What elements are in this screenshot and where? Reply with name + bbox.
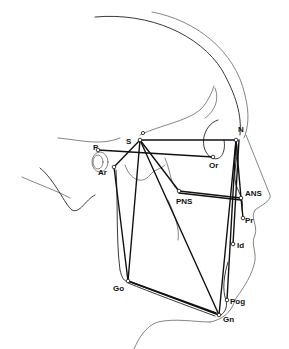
point-ar <box>112 165 116 169</box>
point-go <box>126 279 130 283</box>
label-pr: Pr <box>245 216 253 225</box>
point-or <box>211 155 215 159</box>
point-pog <box>225 298 229 302</box>
point-ans <box>239 196 243 200</box>
s-go-line <box>128 140 140 281</box>
point-s <box>138 138 142 142</box>
label-go: Go <box>113 284 124 293</box>
label-p: P <box>93 143 99 152</box>
label-gn: Gn <box>223 315 234 324</box>
go-gn-line-2 <box>128 281 216 313</box>
label-s: S <box>126 137 132 146</box>
ar-go-line <box>114 167 128 281</box>
point-n <box>234 138 238 142</box>
ans-pr-line <box>241 198 243 218</box>
label-ar: Ar <box>98 168 107 177</box>
s-gn-line <box>140 140 219 315</box>
label-ans: ANS <box>245 189 263 198</box>
point-gn <box>217 313 221 317</box>
point-pns <box>177 189 181 193</box>
label-n: N <box>238 125 244 134</box>
label-pns: PNS <box>176 197 193 206</box>
frankfort-horizontal-line <box>98 150 213 157</box>
label-id: Id <box>237 241 244 250</box>
cephalometric-figure: S N Or P Ar PNS ANS Pr Id Go Pog Gn <box>0 0 289 349</box>
label-pog: Pog <box>230 297 245 306</box>
label-or: Or <box>209 161 218 170</box>
sella-marker <box>141 131 144 134</box>
point-id <box>231 242 235 246</box>
